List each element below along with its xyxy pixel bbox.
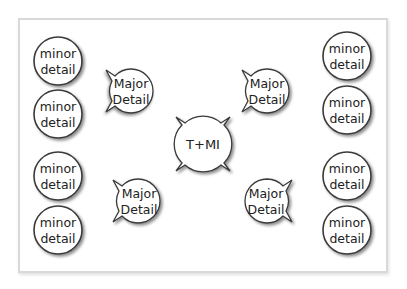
minor-detail-label: minor xyxy=(40,161,77,176)
major-detail-label: Detail xyxy=(248,202,285,217)
minor-detail-label: minor xyxy=(329,215,366,230)
major-detail-label: Major xyxy=(250,76,286,91)
concept-diagram: minor detail minor detail minor detail m… xyxy=(0,0,407,289)
minor-detail-node: minor detail xyxy=(323,206,371,254)
minor-detail-node: minor detail xyxy=(34,90,82,138)
major-detail-label: Major xyxy=(122,186,158,201)
minor-detail-label: minor xyxy=(329,41,366,56)
major-detail-top-left: Major Detail xyxy=(106,69,153,113)
minor-detail-label: detail xyxy=(40,231,75,246)
minor-detail-node: minor detail xyxy=(34,37,82,85)
minor-detail-label: minor xyxy=(329,161,366,176)
major-detail-top-right: Major Detail xyxy=(242,69,289,113)
minor-detail-label: detail xyxy=(329,111,364,126)
center-label: T+MI xyxy=(185,137,220,152)
center-node: T+MI xyxy=(174,116,232,172)
minor-detail-label: minor xyxy=(40,46,77,61)
minor-detail-label: minor xyxy=(40,99,77,114)
major-detail-label: Major xyxy=(114,76,150,91)
minor-detail-node: minor detail xyxy=(323,86,371,134)
minor-detail-node: minor detail xyxy=(323,152,371,200)
minor-detail-label: minor xyxy=(40,215,77,230)
minor-detail-label: detail xyxy=(329,177,364,192)
minor-detail-node: minor detail xyxy=(323,32,371,80)
major-detail-label: Detail xyxy=(249,92,286,107)
minor-detail-label: minor xyxy=(329,95,366,110)
major-detail-label: Detail xyxy=(121,202,158,217)
minor-detail-label: detail xyxy=(40,115,75,130)
major-detail-bottom-right: Major Detail xyxy=(245,179,292,223)
minor-detail-node: minor detail xyxy=(34,206,82,254)
minor-detail-node: minor detail xyxy=(34,152,82,200)
major-detail-bottom-left: Major Detail xyxy=(113,179,160,223)
minor-detail-label: detail xyxy=(329,231,364,246)
minor-detail-label: detail xyxy=(40,177,75,192)
minor-detail-label: detail xyxy=(40,62,75,77)
major-detail-label: Detail xyxy=(113,92,150,107)
minor-detail-label: detail xyxy=(329,57,364,72)
major-detail-label: Major xyxy=(249,186,285,201)
